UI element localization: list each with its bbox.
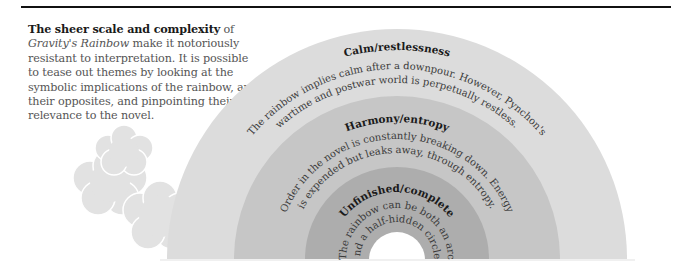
ground-line bbox=[160, 259, 635, 261]
cloud-icon bbox=[95, 125, 153, 175]
rainbow-diagram: Calm/restlessness The rainbow implies ca… bbox=[0, 0, 677, 271]
